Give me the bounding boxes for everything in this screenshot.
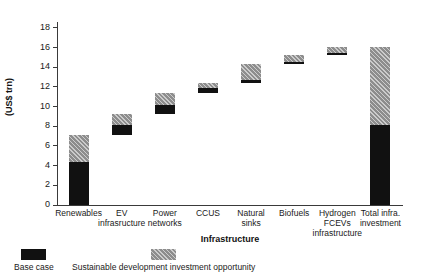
legend-item: Sustainable development investment oppor… xyxy=(72,249,255,273)
chart-legend: Base caseSustainable development investm… xyxy=(0,249,421,277)
legend-label: Sustainable development investment oppor… xyxy=(72,261,255,273)
bar-segment-base-case xyxy=(284,62,304,64)
y-tick-label: 2 xyxy=(45,179,50,190)
bar-segment-opportunity xyxy=(284,55,304,62)
bar-segment-opportunity xyxy=(241,64,261,80)
bar xyxy=(198,83,218,93)
y-tick-label: 10 xyxy=(40,101,50,112)
bar xyxy=(370,47,390,205)
bar xyxy=(155,93,175,115)
y-tick-label: 8 xyxy=(45,120,50,131)
bar xyxy=(241,64,261,83)
y-tick-label: 4 xyxy=(45,160,50,171)
x-axis-title: Infrastructure xyxy=(57,234,403,244)
bar-segment-base-case xyxy=(155,105,175,115)
bar-segment-base-case xyxy=(112,125,132,135)
bar-segment-base-case xyxy=(69,162,89,205)
bar-segment-opportunity xyxy=(69,135,89,162)
bar-segment-base-case xyxy=(370,125,390,205)
y-tick-label: 6 xyxy=(45,140,50,151)
x-axis-line xyxy=(57,205,403,206)
bar-segment-base-case xyxy=(241,80,261,83)
bar-segment-opportunity xyxy=(112,114,132,125)
bar xyxy=(284,55,304,64)
y-tick-label: 12 xyxy=(40,81,50,92)
y-tick-label: 14 xyxy=(40,61,50,72)
plot-area xyxy=(57,22,402,205)
legend-label: Base case xyxy=(14,261,54,273)
y-tick-label: 0 xyxy=(45,199,50,210)
bar xyxy=(69,135,89,205)
y-tick-label: 18 xyxy=(40,22,50,33)
legend-item: Base case xyxy=(14,249,54,273)
bar-segment-base-case xyxy=(327,53,347,55)
bar xyxy=(112,114,132,135)
x-tick-label: Total infra. investment xyxy=(353,208,408,228)
bar-segment-opportunity xyxy=(155,93,175,105)
bar-segment-opportunity xyxy=(327,47,347,54)
legend-swatch-opp xyxy=(151,249,176,260)
bar xyxy=(327,47,347,56)
legend-swatch-base xyxy=(21,249,46,260)
bar-segment-opportunity xyxy=(370,47,390,126)
waterfall-chart: (US$ trn) 024681012141618 RenewablesEV i… xyxy=(0,0,421,279)
bar-segment-base-case xyxy=(198,88,218,92)
y-tick-label: 16 xyxy=(40,42,50,53)
y-axis-title: (US$ trn) xyxy=(4,52,14,142)
